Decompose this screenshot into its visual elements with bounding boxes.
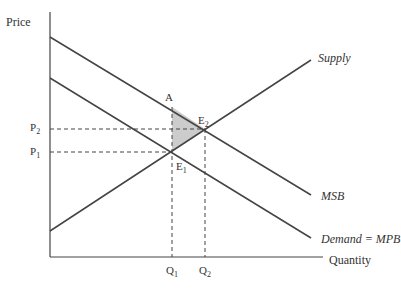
demand-curve [50, 78, 311, 238]
price-p2-label: P2 [30, 121, 40, 136]
externality-diagram: Price Quantity Supply MSB Demand = MPB A… [0, 0, 401, 292]
point-e1-label: E1 [176, 160, 187, 175]
msb-label: MSB [320, 189, 345, 203]
x-axis-label: Quantity [329, 253, 371, 267]
y-axis-label: Price [6, 15, 31, 29]
supply-label: Supply [318, 51, 351, 65]
demand-label: Demand = MPB [320, 232, 401, 246]
point-a-label: A [165, 91, 173, 103]
price-p1-label: P1 [30, 145, 40, 160]
quantity-q2-label: Q2 [199, 264, 211, 279]
quantity-q1-label: Q1 [166, 264, 178, 279]
supply-curve [50, 60, 311, 231]
